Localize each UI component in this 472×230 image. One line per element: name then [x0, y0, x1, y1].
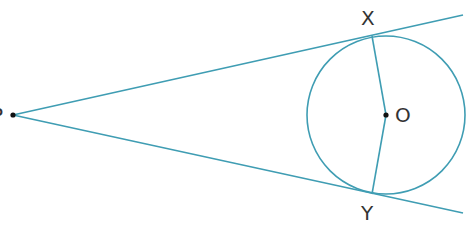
radius-oy	[372, 115, 386, 194]
tangent-line-px	[13, 15, 463, 115]
label-x: X	[361, 6, 375, 30]
label-y: Y	[360, 201, 374, 225]
point-p	[10, 112, 15, 117]
tangent-diagram: P O X Y	[0, 0, 472, 230]
label-o: O	[395, 103, 411, 127]
point-o	[383, 112, 388, 117]
label-p: P	[0, 103, 3, 127]
tangent-line-py	[13, 115, 463, 213]
radius-ox	[372, 36, 386, 115]
